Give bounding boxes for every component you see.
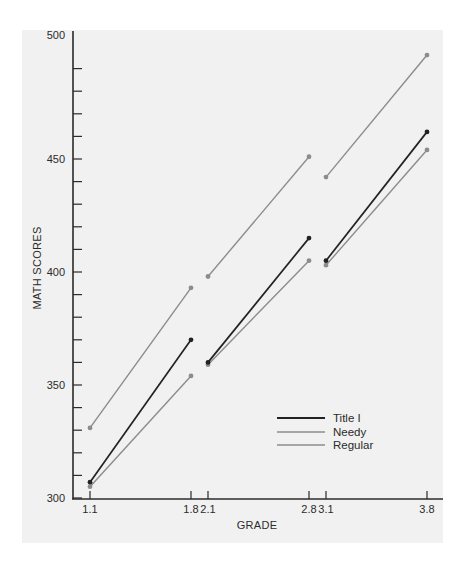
- data-point: [425, 129, 430, 134]
- y-tick-label: 450: [47, 153, 65, 165]
- data-point: [307, 258, 312, 263]
- data-point: [189, 285, 194, 290]
- data-point: [88, 484, 93, 489]
- x-tick-label: 2.1: [200, 503, 215, 515]
- x-tick-label: 3.1: [318, 503, 333, 515]
- data-point: [189, 337, 194, 342]
- legend-label: Regular: [333, 439, 373, 451]
- data-point: [206, 360, 211, 365]
- data-point: [425, 148, 430, 153]
- math-scores-chart: 300350400450500 1.11.82.12.83.13.8 MATH …: [0, 0, 464, 565]
- data-point: [189, 374, 194, 379]
- x-tick-label: 1.8: [183, 503, 198, 515]
- y-tick-label: 300: [47, 492, 65, 504]
- x-tick-label: 3.8: [419, 503, 434, 515]
- data-point: [88, 480, 93, 485]
- data-point: [324, 175, 329, 180]
- y-tick-label: 500: [47, 29, 65, 41]
- data-point: [88, 426, 93, 431]
- x-axis-title: GRADE: [237, 519, 278, 531]
- data-point: [206, 274, 211, 279]
- legend-label: Title I: [333, 412, 361, 424]
- y-tick-label: 350: [47, 379, 65, 391]
- data-point: [307, 236, 312, 241]
- data-point: [324, 258, 329, 263]
- x-tick-label: 2.8: [301, 503, 316, 515]
- data-point: [425, 53, 430, 58]
- data-point: [324, 263, 329, 268]
- y-tick-label: 400: [47, 266, 65, 278]
- chart-background: [22, 30, 443, 543]
- y-axis-title: MATH SCORES: [31, 226, 43, 309]
- x-tick-label: 1.1: [82, 503, 97, 515]
- legend-label: Needy: [333, 426, 366, 438]
- data-point: [307, 154, 312, 159]
